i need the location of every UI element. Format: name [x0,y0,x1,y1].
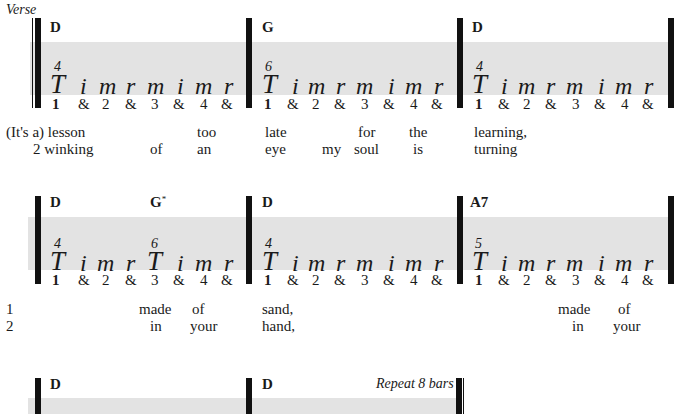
lyric-word: of [192,301,205,317]
beat: 3 [361,97,369,112]
row3-end-thick-barline [456,378,462,414]
lyric-word: your [613,318,641,334]
row1-barline-2 [246,18,252,108]
beat: 2 [312,273,320,288]
lyric-word: my [322,141,341,157]
lyric-word: of [618,301,631,317]
beat: 4 [200,97,208,112]
finger-m: m [195,74,212,98]
row3-staff-band [28,398,462,414]
lyric-word: for [358,124,376,140]
finger-r: r [546,74,555,98]
lyric-word: made [558,301,590,317]
section-label: Verse [6,2,36,18]
chord-label: D [50,19,61,36]
beat: & [642,97,654,112]
row2-barline-4 [668,196,674,284]
beat: 1 [475,273,483,288]
finger-thumb: T [262,72,277,96]
finger-r: r [224,74,233,98]
finger-m: m [99,74,116,98]
beat: & [545,273,557,288]
beat: & [287,273,299,288]
lyric-word: (It's a) lesson [6,124,85,140]
finger-thumb: T [147,249,162,273]
lyric-word: an [197,141,211,157]
lyric-word: 2 [6,318,14,334]
lyric-word: in [150,318,162,334]
beat: 1 [475,97,483,112]
beat: 4 [200,273,208,288]
beat: & [221,273,233,288]
lyric-word: soul [354,141,379,157]
finger-r: r [644,74,653,98]
lyric-word: too [197,124,216,140]
beat: & [125,273,137,288]
finger-m: m [356,74,373,98]
row2-barline-2 [246,196,252,284]
lyric-word: made [139,301,171,317]
lyric-word: eye [265,141,286,157]
finger-r: r [336,74,345,98]
beat: 4 [621,273,629,288]
chord-label: G [262,19,274,36]
row2-barline-1 [35,196,41,284]
lyric-word: of [150,141,163,157]
row1-barline-4 [668,18,674,108]
lyric-word: sand, [262,301,293,317]
beat: 2 [102,273,110,288]
beat: 2 [523,273,531,288]
finger-i: i [501,74,508,98]
finger-thumb: T [472,249,487,273]
chord-label: D [472,19,483,36]
finger-m: m [566,74,583,98]
lyric-word: your [190,318,218,334]
beat: 2 [102,97,110,112]
lyric-word: turning [474,141,517,157]
beat: & [594,273,606,288]
beat: 4 [410,97,418,112]
chord-name: G [150,194,162,210]
row3-end-thin-barline [463,378,464,414]
beat: 3 [151,273,159,288]
beat: 1 [264,97,272,112]
finger-thumb: T [262,249,277,273]
beat: 4 [621,97,629,112]
row1-barline-3 [457,18,463,108]
beat: & [498,97,510,112]
finger-m: m [405,74,422,98]
beat: 2 [523,97,531,112]
beat: 1 [52,273,60,288]
repeat-instruction: Repeat 8 bars [376,376,454,392]
finger-i: i [177,74,184,98]
chord-asterisk: * [162,194,167,204]
lyric-word: is [413,141,423,157]
lyric-word: hand, [262,318,295,334]
beat: 3 [361,273,369,288]
finger-m: m [147,74,164,98]
beat: & [431,273,443,288]
beat: & [173,97,185,112]
lyric-word: 2 winking [33,141,93,157]
beat: 3 [151,97,159,112]
lyric-word: learning, [474,124,527,140]
beat: & [334,97,346,112]
finger-thumb: T [50,72,65,96]
beat: & [383,97,395,112]
finger-i: i [388,74,395,98]
finger-r: r [126,74,135,98]
beat: & [78,97,90,112]
chord-label: D [50,194,61,211]
lyric-word: in [572,318,584,334]
finger-i: i [292,74,299,98]
beat: 1 [264,273,272,288]
row3-barline-2 [246,378,252,414]
beat: & [221,97,233,112]
finger-i: i [598,74,605,98]
row2-barline-3 [457,196,463,284]
beat: & [287,97,299,112]
chord-label: D [262,194,273,211]
finger-i: i [80,74,87,98]
beat: & [78,273,90,288]
beat: 2 [312,97,320,112]
